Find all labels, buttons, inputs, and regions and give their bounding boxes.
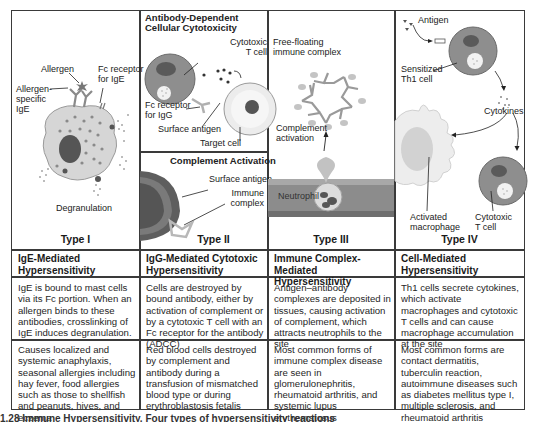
label-line: activation: [276, 133, 314, 143]
header-line: Hypersensitivity: [146, 265, 223, 276]
header-type-2: IgG-Mediated CytotoxicHypersensitivity: [146, 253, 264, 276]
mechanism-type-3: Antigen–antibody complexes are deposited…: [274, 282, 392, 350]
label-line: Fc receptor: [98, 64, 144, 74]
examples-type-3: Most common forms of immune complex dise…: [274, 344, 392, 422]
label-degranulation: Degranulation: [56, 203, 112, 213]
label-neutrophil: Neutrophil: [278, 191, 319, 201]
figure-caption: 1.28 Immune Hypersensitivity. Four types…: [0, 413, 335, 422]
label-antigen: Antigen: [418, 15, 449, 25]
label-cytokines: Cytokines: [484, 106, 524, 116]
header-line: Hypersensitivity: [401, 265, 478, 276]
label-line: Allergen-: [16, 84, 52, 94]
mechanism-type-1: IgE is bound to mast cells via its Fc po…: [18, 282, 136, 338]
label-cytotoxic-t-cell: CytotoxicT cell: [230, 37, 267, 57]
complement-activation-title: Complement Activation: [170, 156, 276, 166]
label-line: for IgE: [98, 74, 125, 84]
label-activated-macrophage: Activatedmacrophage: [410, 212, 460, 232]
mast-cell-illustration: [12, 11, 139, 249]
label-line: complex: [230, 198, 264, 208]
header-line: IgE-Mediated: [18, 253, 80, 264]
label-complement-activation: Complementactivation: [276, 123, 327, 143]
examples-type-4: Most common forms are contact dermatitis…: [401, 344, 521, 422]
label-line: Cytotoxic: [475, 212, 512, 222]
examples-type-1: Causes localized and systemic anaphylaxi…: [18, 344, 136, 422]
header-line: Hypersensitivity: [18, 265, 95, 276]
label-cytotoxic-t-cell-2: CytotoxicT cell: [475, 212, 512, 232]
label-allergen-specific-ige: Allergen-specificIgE: [16, 84, 52, 114]
label-line: Fc receptor: [145, 100, 191, 110]
label-line: Sensitized: [401, 64, 443, 74]
mechanism-type-4: Th1 cells secrete cytokines, which activ…: [401, 282, 521, 350]
label-line: Th1 cell: [401, 74, 433, 84]
header-type-4: Cell-MediatedHypersensitivity: [401, 253, 519, 276]
label-line: Complement: [276, 123, 327, 133]
label-fc-receptor-igg: Fc receptorfor IgG: [145, 100, 191, 120]
label-line: Cytotoxic: [230, 37, 267, 47]
label-immune-complex: Immunecomplex: [226, 188, 264, 208]
label-sensitized-th1-cell: SensitizedTh1 cell: [401, 64, 443, 84]
row-divider: [11, 276, 525, 278]
header-line: IgG-Mediated Cytotoxic: [146, 253, 258, 264]
label-fc-receptor-ige: Fc receptorfor IgE: [98, 64, 144, 84]
label-line: specific: [16, 94, 46, 104]
header-line: Cell-Mediated: [401, 253, 466, 264]
label-target-cell: Target cell: [200, 138, 241, 148]
label-line: IgE: [16, 104, 30, 114]
label-allergen: Allergen: [41, 64, 74, 74]
label-line: T cell: [238, 47, 267, 57]
type-label-1: Type I: [12, 233, 139, 245]
type-label-2: Type II: [140, 233, 267, 245]
header-type-1: IgE-MediatedHypersensitivity: [18, 253, 136, 276]
label-line: T cell: [475, 222, 496, 232]
label-line: macrophage: [410, 222, 460, 232]
examples-type-2: Red blood cells destroyed by complement …: [146, 344, 266, 412]
label-line: Activated: [410, 212, 447, 222]
label-surface-antigen: Surface antigen: [158, 124, 221, 134]
header-line: Immune Complex-Mediated: [274, 253, 361, 276]
mechanism-type-2: Cells are destroyed by bound antibody, e…: [146, 282, 266, 350]
type-label-4: Type IV: [395, 233, 524, 245]
row-divider: [11, 249, 525, 251]
type-label-3: Type III: [268, 233, 394, 245]
label-surface-antigen-2: Surface antigen: [209, 174, 272, 184]
label-line: Immune: [231, 188, 264, 198]
label-line: for IgG: [145, 110, 173, 120]
